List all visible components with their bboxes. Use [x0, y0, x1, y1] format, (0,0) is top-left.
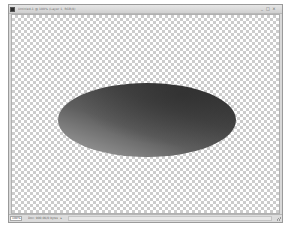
- maximize-button[interactable]: □: [266, 7, 270, 11]
- document-icon: [10, 7, 15, 12]
- title-bar[interactable]: Untitled-1 @ 100% (Layer 1, RGB/8) _ □ ×: [9, 5, 282, 14]
- status-bar: 100% Doc: 900.0K/0 bytes ▸: [9, 214, 282, 222]
- image-canvas[interactable]: [11, 14, 280, 214]
- gradient-ellipse: [58, 83, 236, 157]
- zoom-level-field[interactable]: 100%: [10, 216, 22, 221]
- resize-grip-icon[interactable]: [276, 216, 281, 221]
- window-title: Untitled-1 @ 100% (Layer 1, RGB/8): [18, 6, 260, 12]
- horizontal-scrollbar[interactable]: [68, 216, 272, 221]
- document-size-info: Doc: 900.0K/0 bytes: [28, 216, 58, 221]
- close-button[interactable]: ×: [272, 7, 276, 11]
- minimize-button[interactable]: _: [260, 7, 264, 11]
- window-controls: _ □ ×: [260, 7, 276, 11]
- status-menu-arrow-icon[interactable]: ▸: [60, 216, 62, 221]
- document-window: Untitled-1 @ 100% (Layer 1, RGB/8) _ □ ×…: [8, 4, 283, 223]
